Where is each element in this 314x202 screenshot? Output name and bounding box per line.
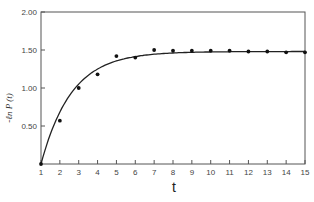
data-point (228, 49, 232, 53)
chart: 0.501.001.502.00 123456789101112131415 -… (0, 0, 314, 202)
y-axis-label: -ℓn P (t) (4, 93, 14, 123)
data-point (190, 49, 194, 53)
x-tick-label: 6 (133, 168, 138, 177)
data-point (284, 50, 288, 54)
x-tick-label: 14 (282, 168, 291, 177)
x-tick-label: 15 (301, 168, 310, 177)
data-point (58, 119, 62, 123)
data-point (39, 162, 43, 166)
fitted-curve (41, 52, 305, 165)
y-tick-label: 1.00 (21, 84, 37, 93)
x-tick-label: 7 (152, 168, 157, 177)
x-tick-label: 13 (263, 168, 272, 177)
data-point (247, 50, 251, 54)
x-tick-label: 9 (190, 168, 195, 177)
data-point (133, 56, 137, 60)
data-point (265, 50, 269, 54)
x-tick-label: 4 (95, 168, 100, 177)
x-tick-label: 11 (225, 168, 234, 177)
data-point (303, 50, 307, 54)
x-tick-label: 10 (206, 168, 215, 177)
y-tick-label: 1.50 (21, 46, 37, 55)
x-tick-label: 3 (76, 168, 81, 177)
x-tick-label: 1 (39, 168, 44, 177)
y-tick-label: 2.00 (21, 8, 37, 17)
data-point (209, 49, 213, 53)
x-axis-label: t (172, 179, 176, 195)
x-tick-label: 5 (114, 168, 119, 177)
x-tick-label: 12 (244, 168, 253, 177)
data-point (96, 72, 100, 76)
x-axis-ticks: 123456789101112131415 (39, 160, 310, 177)
y-tick-label: 0.50 (21, 122, 37, 131)
data-points (39, 48, 307, 166)
data-point (115, 54, 119, 58)
data-point (171, 49, 175, 53)
data-point (152, 48, 156, 52)
x-tick-label: 8 (171, 168, 176, 177)
x-tick-label: 2 (58, 168, 63, 177)
data-point (77, 86, 81, 90)
